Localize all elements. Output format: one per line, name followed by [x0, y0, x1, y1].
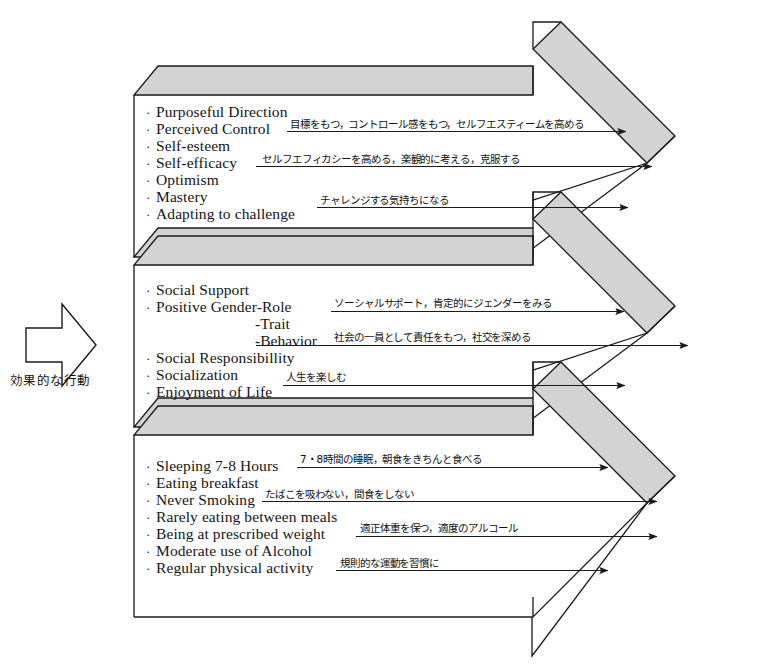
list-item-label: Moderate use of Alcohol: [156, 542, 312, 559]
list-item: ·Regular physical activity: [146, 559, 313, 577]
band-psychological-top-bevel: [134, 66, 533, 95]
list-item-label: Never Smoking: [156, 491, 255, 508]
list-item-label: Eating breakfast: [156, 474, 259, 491]
list-item: ·Optimism: [146, 171, 219, 189]
bullet-dot: ·: [146, 189, 156, 206]
band-lifestyle-arrowhead-lower: [533, 476, 675, 617]
bullet-dot: ·: [146, 384, 156, 401]
band-social-top-bevel: [134, 236, 533, 265]
list-item-label: Enjoyment of Life: [156, 383, 272, 400]
annotation-label: 人生を楽しむ: [286, 371, 345, 383]
list-item: ·Self-esteem: [146, 137, 230, 155]
bullet-dot: ·: [146, 282, 156, 299]
annotation-label: チャレンジする気持ちになる: [320, 194, 449, 206]
list-item: ·Being at prescribed weight: [146, 525, 325, 543]
bullet-dot: ·: [146, 509, 156, 526]
list-item: ·Never Smoking: [146, 491, 255, 509]
bullet-dot: ·: [146, 138, 156, 155]
bullet-dot: ·: [146, 206, 156, 223]
list-item: ·Enjoyment of Life: [146, 383, 272, 401]
list-item: ·Sleeping 7-8 Hours: [146, 457, 278, 475]
bullet-dot: ·: [146, 104, 156, 121]
list-item-label: Purposeful Direction: [156, 103, 288, 120]
left-caption: 効果的な行動: [10, 370, 90, 389]
annotation-label: たばこを吸わない，間食をしない: [265, 488, 414, 500]
band-psychological-arrowhead-bevel: [533, 22, 675, 163]
list-item-label: Sleeping 7-8 Hours: [156, 457, 278, 474]
list-subitem: -Trait: [255, 315, 290, 332]
annotation-label: 7・8時間の睡眠，朝食をきちんと食べる: [300, 453, 481, 465]
list-item: ·Moderate use of Alcohol: [146, 542, 312, 560]
annotation-label: 社会の一員として責任をもつ，社交を深める: [334, 331, 531, 343]
bullet-dot: ·: [146, 155, 156, 172]
list-item: ·Purposeful Direction: [146, 103, 288, 121]
bullet-dot: ·: [146, 458, 156, 475]
list-item: ·Mastery: [146, 188, 208, 206]
list-item: ·Social Support: [146, 281, 249, 299]
annotation-label: 目標をもつ，コントロール感をもつ，セルフエスティームを高める: [290, 118, 584, 130]
list-item: ·Eating breakfast: [146, 474, 259, 492]
list-item-label: Social Support: [156, 281, 249, 298]
bullet-dot: ·: [146, 492, 156, 509]
bullet-dot: ·: [146, 560, 156, 577]
bullet-dot: ·: [146, 350, 156, 367]
bullet-dot: ·: [146, 172, 156, 189]
bullet-dot: ·: [146, 543, 156, 560]
list-item: ·Rarely eating between meals: [146, 508, 337, 526]
list-item-label: Perceived Control: [156, 120, 270, 137]
annotation-label: セルフエフィカシーを高める，楽観的に考える，克服する: [262, 153, 519, 165]
list-item-label: Regular physical activity: [156, 559, 313, 576]
annotation-label: 適正体重を保つ，適度のアルコール: [360, 522, 517, 534]
bullet-dot: ·: [146, 367, 156, 384]
list-item-label: Socialization: [156, 366, 238, 383]
band-lifestyle-top-bevel: [134, 406, 533, 435]
list-item: ·Self-efficacy: [146, 154, 237, 172]
annotation-label: ソーシャルサポート，肯定的にジェンダーをみる: [334, 297, 552, 309]
bullet-dot: ·: [146, 121, 156, 138]
list-item-label: Self-efficacy: [156, 154, 237, 171]
list-item-label: Rarely eating between meals: [156, 508, 337, 525]
annotation-label: 規則的な運動を習慣に: [340, 557, 439, 569]
band-lifestyle-arrowhead-bevel: [533, 362, 675, 503]
list-item-label: Mastery: [156, 188, 208, 205]
list-item: ·Social Responsibillity: [146, 349, 295, 367]
list-item-label: Positive Gender-Role: [156, 298, 292, 315]
bullet-dot: ·: [146, 299, 156, 316]
list-item-label: Optimism: [156, 171, 219, 188]
band-psychological-flow-arrows: [256, 132, 652, 208]
list-subitem: -Behavior: [255, 332, 317, 349]
list-item: ·Perceived Control: [146, 120, 270, 138]
list-item-label: Being at prescribed weight: [156, 525, 325, 542]
list-item-label: Social Responsibillity: [156, 349, 295, 366]
diagram-canvas: 効果的な行動 ·Purposeful Direction ·Perceived …: [0, 0, 764, 669]
list-item: ·Socialization: [146, 366, 238, 384]
list-item-label: Self-esteem: [156, 137, 230, 154]
bullet-dot: ·: [146, 475, 156, 492]
bullet-dot: ·: [146, 526, 156, 543]
list-item-label: Adapting to challenge: [156, 205, 295, 222]
list-item: ·Adapting to challenge: [146, 205, 295, 223]
list-item: ·Positive Gender-Role: [146, 298, 292, 316]
